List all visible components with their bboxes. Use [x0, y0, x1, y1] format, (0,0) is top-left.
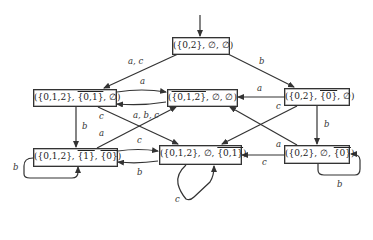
- state-label-overline: {0}: [334, 148, 351, 158]
- state-label-post: ): [351, 148, 355, 158]
- edge-s6-s2: [230, 107, 297, 145]
- edge-label-s4-s2: a: [99, 128, 104, 138]
- edge-label-s1-s4: b: [82, 121, 87, 131]
- edge-label-s5-loop: c: [175, 194, 180, 204]
- state-node-s2: ({0,1,2}, ∅, ∅): [167, 89, 238, 107]
- state-label-pre: ({0,1,2}, ∅,: [160, 148, 217, 158]
- state-node-s4: ({0,1,2}, {1}, {0}): [33, 148, 118, 167]
- state-label: ({0,2}, ∅, ∅): [173, 40, 233, 50]
- edge-label-s4-loop: b: [13, 162, 18, 172]
- state-label-overline: {0,1,2}: [172, 92, 206, 102]
- state-label-overline: {0}: [320, 91, 337, 101]
- edge-label-s4-s5: c: [137, 135, 142, 145]
- edge-label-s6-s2: a: [276, 139, 281, 149]
- edge-label-s0-s3: b: [259, 56, 264, 66]
- edge-label-s3-s6: b: [324, 119, 329, 129]
- edge-label-abc: a, b, c: [133, 110, 159, 120]
- state-label-pre: ({0,2}, ∅,: [285, 148, 334, 158]
- state-label-post: , ∅): [103, 92, 120, 102]
- state-label-post: ): [243, 148, 247, 158]
- state-node-s1: ({0,1,2}, {0,1}, ∅): [33, 89, 117, 107]
- edge-label-s6-s5: c: [262, 157, 267, 167]
- state-node-s0: ({0,2}, ∅, ∅): [172, 37, 230, 55]
- edge-label-s1-s2: a: [140, 76, 145, 86]
- state-label-overline: {0,1}: [217, 148, 243, 158]
- state-label-post: , ∅): [337, 91, 354, 101]
- state-node-s5: ({0,1,2}, ∅, {0,1}): [159, 145, 242, 165]
- edge-s4-s5: [118, 150, 158, 152]
- state-label-overline: {0,1}: [78, 92, 104, 102]
- state-label-pre: ({0,1,2},: [34, 92, 78, 102]
- edge-label-s6-loop: b: [337, 179, 342, 189]
- state-label-overline-2: {0}: [101, 151, 118, 161]
- edge-label-s1-s5: c: [99, 111, 104, 121]
- state-label-overline: {1}: [78, 151, 95, 161]
- state-node-s6: ({0,2}, ∅, {0}): [284, 145, 350, 164]
- state-label-pre: ({0,2},: [285, 91, 320, 101]
- edge-label-s0-s1: a, c: [128, 56, 143, 66]
- edge-s5-s4: [118, 161, 158, 163]
- state-node-s3: ({0,2}, {0}, ∅): [284, 88, 350, 106]
- edge-s1-s2: [117, 90, 166, 92]
- edge-s2-s1: [117, 102, 166, 105]
- state-label-pre: ({0,1,2},: [34, 151, 78, 161]
- state-label-post: ): [118, 151, 122, 161]
- state-label-post: , ∅, ∅): [206, 92, 237, 102]
- edge-label-s5-s4: b: [137, 167, 142, 177]
- edge-label-s3-s5: c: [276, 101, 281, 111]
- loop-s5: [178, 165, 214, 200]
- edge-label-s3-s2: a: [257, 83, 262, 93]
